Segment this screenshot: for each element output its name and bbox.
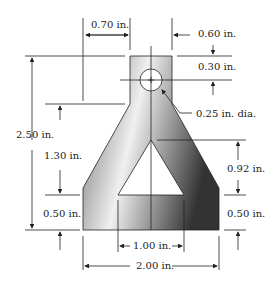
- dim-overall-width: 2.00 in.: [136, 260, 174, 271]
- part-drawing: 0.70 in. 0.60 in. 0.30 in. 0.25 in. dia.…: [0, 0, 269, 290]
- dim-overall-height: 2.50 in.: [16, 129, 54, 140]
- dim-hole-diameter: 0.25 in. dia.: [196, 108, 256, 119]
- dim-triangle-height: 0.92 in.: [227, 163, 265, 174]
- dim-base-height-right: 0.50 in.: [227, 208, 265, 219]
- dim-triangle-base-width: 1.00 in.: [133, 240, 171, 251]
- dim-hole-center-offset: 0.30 in.: [198, 61, 236, 72]
- dim-top-left-offset: 0.70 in.: [91, 19, 129, 30]
- dim-base-height-left: 0.50 in.: [43, 208, 81, 219]
- dim-flare-height: 1.30 in.: [44, 150, 82, 161]
- dim-top-width: 0.60 in.: [198, 28, 236, 39]
